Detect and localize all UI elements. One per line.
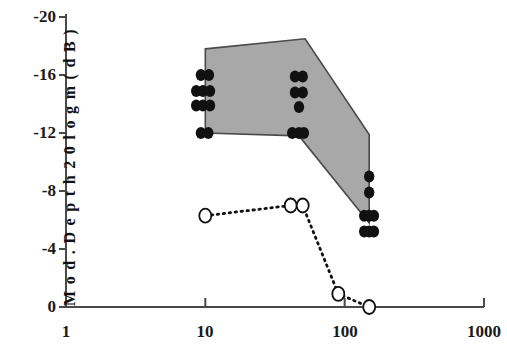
data-point-filled-9 bbox=[203, 127, 213, 139]
data-point-open-2 bbox=[297, 199, 309, 213]
data-point-filled-7 bbox=[205, 99, 215, 111]
y-tick-label-minus20: -20 bbox=[10, 7, 56, 27]
y-tick-label-minus16: -16 bbox=[10, 65, 56, 85]
chart-figure: M o d . D e p t h 2 0 l o g m ( d B ) -2… bbox=[0, 0, 507, 359]
data-point-filled-13 bbox=[298, 86, 308, 98]
shaded-range-polygon bbox=[205, 39, 369, 223]
x-tick-label-10: 10 bbox=[197, 322, 214, 342]
data-point-filled-11 bbox=[298, 70, 308, 82]
data-point-filled-22 bbox=[369, 210, 379, 222]
x-tick-label-100: 100 bbox=[332, 322, 358, 342]
data-point-filled-25 bbox=[369, 226, 379, 238]
data-point-open-1 bbox=[285, 199, 297, 213]
data-point-filled-17 bbox=[299, 127, 309, 139]
y-axis-title: M o d . D e p t h 2 0 l o g m ( d B ) bbox=[61, 17, 79, 317]
data-point-filled-14 bbox=[294, 101, 304, 113]
data-point-filled-4 bbox=[205, 85, 215, 97]
data-point-filled-1 bbox=[204, 69, 214, 81]
data-point-open-3 bbox=[332, 287, 344, 301]
x-tick-label-1: 1 bbox=[62, 322, 71, 342]
data-point-open-4 bbox=[363, 300, 375, 314]
data-point-filled-19 bbox=[364, 186, 374, 198]
x-tick-label-1000: 1000 bbox=[467, 322, 501, 342]
y-tick-label-minus8: -8 bbox=[10, 181, 56, 201]
open-circle-series bbox=[199, 199, 375, 315]
x-axis-ticks bbox=[66, 298, 484, 307]
data-point-open-0 bbox=[199, 209, 211, 223]
data-point-filled-18 bbox=[364, 171, 374, 183]
y-tick-label-zero: 0 bbox=[10, 297, 56, 317]
y-tick-label-minus4: -4 bbox=[10, 239, 56, 259]
y-tick-label-minus12: -12 bbox=[10, 123, 56, 143]
